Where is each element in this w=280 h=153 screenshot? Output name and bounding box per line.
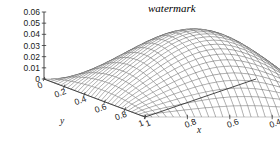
y-tick-label-0: 0 <box>36 80 44 91</box>
plot-canvas: 0.060.050.040.030.020.01000.20.40.60.81y… <box>0 0 280 153</box>
x-tick-label-0: 1 <box>144 118 152 129</box>
z-tick-label-3: 0.03 <box>23 41 40 51</box>
z-tick-label-2: 0.04 <box>23 29 40 39</box>
watermark-text: watermark <box>148 2 196 14</box>
surface-plot-figure: 0.060.050.040.030.020.01000.20.40.60.81y… <box>0 0 280 153</box>
y-axis-label: y <box>59 116 65 126</box>
y-tick-label-1: 0.2 <box>53 86 68 100</box>
z-tick-label-0: 0.06 <box>23 7 40 17</box>
y-tick-label-3: 0.6 <box>93 101 108 115</box>
z-tick-label-1: 0.05 <box>23 18 40 28</box>
y-tick-label-4: 0.8 <box>113 109 128 123</box>
x-tick-label-2: 0.6 <box>225 116 240 130</box>
z-tick-label-5: 0.01 <box>23 63 40 73</box>
y-tick-label-2: 0.4 <box>73 94 88 108</box>
x-tick-label-1: 0.8 <box>183 116 198 130</box>
z-tick-label-4: 0.02 <box>23 52 40 62</box>
x-tick-label-3: 0.4 <box>268 116 280 130</box>
x-axis-label: x <box>196 125 202 135</box>
